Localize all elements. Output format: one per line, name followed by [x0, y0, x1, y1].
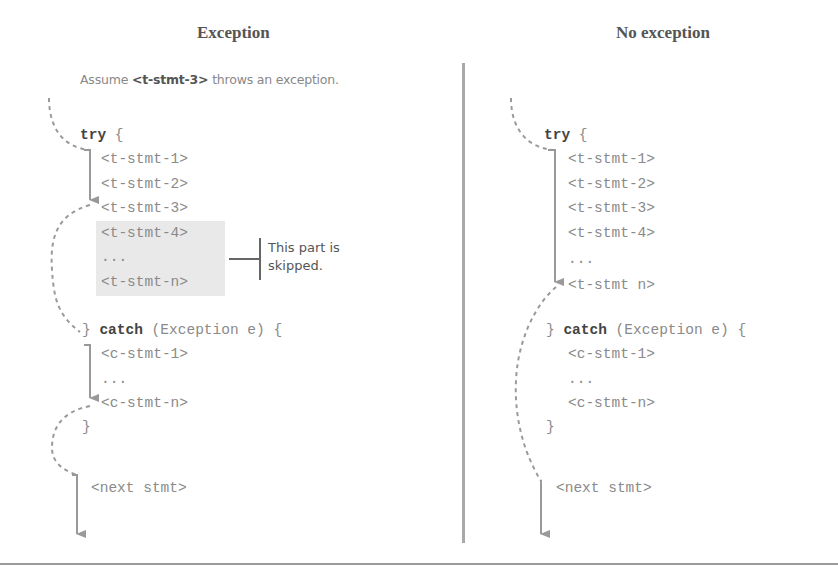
left-dashed-entry — [49, 98, 90, 150]
right-next-arrow — [540, 481, 541, 534]
right-dashed-entry — [511, 98, 554, 150]
left-next-arrow — [72, 475, 77, 534]
left-dashed-to-next — [52, 406, 90, 475]
right-try-arrow — [548, 150, 555, 282]
flow-arrows — [0, 0, 838, 572]
left-catch-arrow — [84, 345, 90, 398]
left-try-arrow — [84, 150, 90, 200]
right-dashed-bypass — [516, 287, 556, 481]
left-dashed-jump-to-catch — [52, 205, 90, 332]
